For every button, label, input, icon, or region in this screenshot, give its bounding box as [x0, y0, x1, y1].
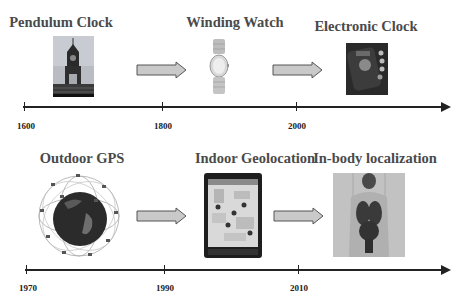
- axis-tick: [162, 102, 163, 111]
- timeline-axis: [25, 269, 443, 271]
- wristwatch-image: [208, 39, 230, 95]
- axis-tick: [164, 265, 165, 274]
- tick-label: 1600: [17, 121, 35, 131]
- flow-arrow-icon: [272, 61, 324, 79]
- axis-tick: [24, 102, 25, 111]
- label-pendulum-clock: Pendulum Clock: [9, 14, 113, 31]
- label-in-body-localization: In-body localization: [313, 150, 437, 167]
- axis-tick: [298, 265, 299, 274]
- label-indoor-geolocation: Indoor Geolocation: [195, 150, 315, 167]
- label-winding-watch: Winding Watch: [186, 14, 283, 31]
- label-outdoor-gps: Outdoor GPS: [40, 150, 125, 167]
- axis-arrowhead-icon: [441, 265, 451, 275]
- axis-arrowhead-icon: [441, 102, 451, 112]
- tick-label: 2000: [288, 121, 306, 131]
- tablet-indoor-map-image: [204, 173, 262, 258]
- tick-label: 1800: [154, 121, 172, 131]
- clock-tower-image: [53, 36, 94, 97]
- timeline-axis: [23, 106, 443, 108]
- label-electronic-clock: Electronic Clock: [314, 18, 417, 35]
- flow-arrow-icon: [136, 207, 188, 225]
- human-body-image: [333, 173, 405, 257]
- tick-label: 1990: [156, 283, 174, 293]
- axis-tick: [26, 265, 27, 274]
- flow-arrow-icon: [136, 61, 188, 79]
- gps-globe-image: [36, 173, 122, 259]
- flow-arrow-icon: [273, 207, 325, 225]
- tick-label: 2010: [290, 283, 308, 293]
- electronic-device-image: [346, 43, 388, 95]
- tick-label: 1970: [19, 283, 37, 293]
- axis-tick: [296, 102, 297, 111]
